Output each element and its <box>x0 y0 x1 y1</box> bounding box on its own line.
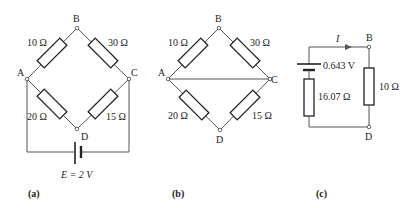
resistor-ab-label: 10 Ω <box>27 37 47 48</box>
current-arrow-icon <box>345 44 352 50</box>
battery-icon <box>297 64 321 70</box>
node-c-label: C <box>131 67 138 78</box>
resistor-ad-label: 20 Ω <box>27 111 47 122</box>
current-label: I <box>335 33 340 44</box>
internal-resistance-label: 16.07 Ω <box>318 91 350 102</box>
resistor-dc-label: 15 Ω <box>106 111 126 122</box>
node-b-label: B <box>366 32 373 43</box>
resistor-ab-label: 10 Ω <box>168 37 188 48</box>
load-resistor-label: 10 Ω <box>379 81 399 92</box>
resistor-bc-label: 30 Ω <box>250 37 270 48</box>
resistor-bc-label: 30 Ω <box>108 37 128 48</box>
caption-c: (c) <box>316 188 327 200</box>
battery-icon <box>75 142 81 164</box>
source-voltage-label: 0.643 V <box>323 60 356 71</box>
node-b-label: B <box>73 13 80 24</box>
load-resistor <box>364 68 374 105</box>
node-d-label: D <box>216 134 223 145</box>
resistor-dc-label: 15 Ω <box>252 110 272 121</box>
node-d-label: D <box>81 131 88 142</box>
node-a-label: A <box>158 67 166 78</box>
node-a-label: A <box>17 67 25 78</box>
caption-a: (a) <box>28 188 40 200</box>
internal-resistor <box>304 79 314 116</box>
node-c-label: C <box>271 74 278 85</box>
node-d-label: D <box>365 131 372 142</box>
circuit-a: B A C D 10 Ω 30 Ω 20 Ω 15 Ω E = 2 V (a) <box>17 13 138 200</box>
node-b-label: B <box>215 13 222 24</box>
caption-b: (b) <box>172 188 184 200</box>
source-label: E = 2 V <box>60 169 94 180</box>
resistor-ad-label: 20 Ω <box>168 110 188 121</box>
circuit-c: I B D 0.643 V 16.07 Ω 10 Ω (c) <box>297 32 399 200</box>
circuit-b: B A C D 10 Ω 30 Ω 20 Ω 15 Ω (b) <box>158 13 278 200</box>
